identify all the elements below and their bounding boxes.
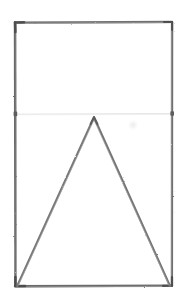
pencil-sketch-drawing — [0, 0, 189, 304]
guide-node-right — [170, 111, 174, 116]
stray-pencil-smudge — [130, 122, 136, 128]
sketch-canvas: Rectangle with inscribed triangle pencil… — [0, 0, 189, 304]
rectangle-left-edge — [15, 22, 16, 286]
guide-node-left — [14, 112, 18, 117]
horizontal-guide-line — [15, 114, 172, 115]
paper-background — [0, 0, 189, 304]
